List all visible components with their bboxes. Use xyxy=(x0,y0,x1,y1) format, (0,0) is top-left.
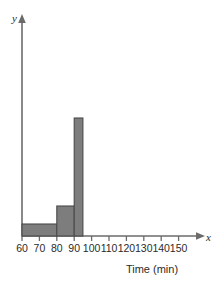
chart-canvas: y x 60 70 80 xyxy=(0,0,219,285)
bar-80-90 xyxy=(57,206,74,236)
x-axis-tick-labels: 60 70 80 90 100 110 120 130 140 150 xyxy=(16,242,187,254)
tick-label: 80 xyxy=(51,242,63,254)
x-axis-label: x xyxy=(205,231,211,243)
histogram-figure: y x 60 70 80 xyxy=(0,0,219,285)
tick-label: 130 xyxy=(135,242,153,254)
histogram-bars xyxy=(22,118,83,236)
tick-label: 140 xyxy=(152,242,170,254)
x-axis-arrowhead xyxy=(196,232,205,240)
tick-label: 60 xyxy=(16,242,28,254)
y-axis-arrowhead xyxy=(18,14,26,23)
x-axis-title: Time (min) xyxy=(126,263,178,275)
bar-60-80 xyxy=(22,224,57,236)
tick-label: 70 xyxy=(34,242,46,254)
y-axis-label: y xyxy=(11,12,17,24)
tick-label: 110 xyxy=(101,242,118,254)
tick-label: 120 xyxy=(118,242,136,254)
bar-90-95 xyxy=(74,118,83,236)
tick-label: 90 xyxy=(68,242,80,254)
tick-label: 100 xyxy=(83,242,101,254)
tick-label: 150 xyxy=(170,242,188,254)
